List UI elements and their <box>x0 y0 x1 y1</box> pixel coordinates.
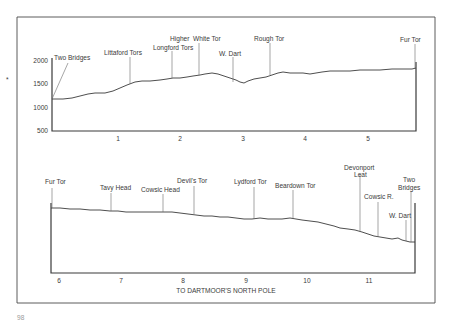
top-profile-line <box>52 68 416 99</box>
page-number: 98 <box>17 314 25 321</box>
bottom-profile-line <box>51 208 415 242</box>
x-tick-1: 1 <box>116 135 120 142</box>
elevation-profile-figure: * 2000 1500 1000 500 1 2 3 4 5 Two Bridg… <box>0 0 449 324</box>
label-two-bridges: Two Bridges <box>54 54 91 62</box>
label-fur-tor-b: Fur Tor <box>45 178 67 185</box>
x-tick-6: 6 <box>57 277 61 284</box>
x-tick-11: 11 <box>366 277 373 284</box>
label-two: Two <box>403 176 415 183</box>
label-bridges: Bridges <box>398 184 421 192</box>
label-longford-tors: Longford Tors <box>153 44 194 52</box>
label-w-dart-b: W. Dart <box>389 212 411 219</box>
y-tick-500: 500 <box>37 127 48 134</box>
label-fur-tor: Fur Tor <box>400 36 422 43</box>
x-tick-7: 7 <box>119 277 123 284</box>
label-w-dart: W. Dart <box>219 50 241 57</box>
label-devils-tor: Devil's Tor <box>177 177 208 184</box>
x-tick-8: 8 <box>181 277 185 284</box>
label-white-tor: White Tor <box>193 35 222 42</box>
x-tick-10: 10 <box>303 277 311 284</box>
x-tick-9: 9 <box>244 277 248 284</box>
y-tick-1000: 1000 <box>33 104 48 111</box>
y-tick-2000: 2000 <box>33 57 48 64</box>
label-cowsic-r: Cowsic R. <box>364 193 394 200</box>
bottom-axes <box>51 203 415 273</box>
top-axes <box>52 58 416 131</box>
bottom-chart: Fur Tor Tavy Head Cowsic Head Devil's To… <box>45 164 421 294</box>
label-higher: Higher <box>170 35 190 43</box>
label-tavy-head: Tavy Head <box>100 184 131 192</box>
leader-two-bridges <box>52 63 68 99</box>
label-beardown-tor: Beardown Tor <box>275 182 316 189</box>
top-chart: 2000 1500 1000 500 1 2 3 4 5 Two Bridges… <box>33 35 421 142</box>
label-leat: Leat <box>354 171 367 178</box>
label-rough-tor: Rough Tor <box>254 35 285 43</box>
label-lydford-tor: Lydford Tor <box>234 178 267 186</box>
x-tick-3: 3 <box>241 135 245 142</box>
x-axis-caption: TO DARTMOOR'S NORTH POLE <box>176 287 276 294</box>
y-tick-1500: 1500 <box>33 80 48 87</box>
label-cowsic-head: Cowsic Head <box>141 186 180 193</box>
side-mark: * <box>6 76 9 83</box>
label-littaford-tors: Littaford Tors <box>104 49 143 56</box>
x-tick-5: 5 <box>366 135 370 142</box>
x-tick-4: 4 <box>303 135 307 142</box>
x-tick-2: 2 <box>178 135 182 142</box>
